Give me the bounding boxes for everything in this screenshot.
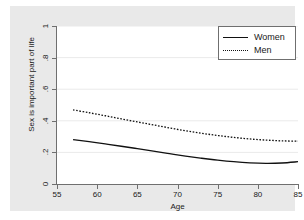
x-tick-mark — [178, 185, 179, 189]
y-tick-mark — [52, 26, 56, 27]
legend: Women Men — [218, 26, 296, 60]
x-tick-label: 65 — [126, 190, 148, 199]
y-tick-mark — [52, 152, 56, 153]
x-tick-mark — [137, 185, 138, 189]
x-tick-mark — [97, 185, 98, 189]
legend-item-men: Men — [219, 43, 295, 56]
x-tick-mark — [218, 185, 219, 189]
x-tick-label: 60 — [86, 190, 108, 199]
y-tick-mark — [52, 184, 56, 185]
legend-line-solid-icon — [223, 33, 248, 41]
legend-label-women: Women — [248, 32, 285, 42]
y-tick-mark — [52, 121, 56, 122]
legend-item-women: Women — [219, 30, 295, 43]
y-tick-label: .8 — [42, 52, 50, 64]
x-tick-mark — [57, 185, 58, 189]
x-axis-title: Age — [56, 202, 299, 211]
series-line-men — [73, 110, 298, 141]
x-tick-label: 55 — [46, 190, 68, 199]
graph-frame: Sex is important part of life 0.2.4.6.81… — [10, 6, 295, 211]
y-axis-title: Sex is important part of life — [27, 19, 36, 151]
series-line-women — [73, 140, 298, 164]
x-tick-mark — [258, 185, 259, 189]
y-tick-mark — [52, 58, 56, 59]
y-tick-label: 1 — [42, 20, 50, 32]
y-tick-label: .4 — [42, 115, 50, 127]
chart-screenshot: Sex is important part of life 0.2.4.6.81… — [0, 0, 304, 220]
x-tick-label: 70 — [167, 190, 189, 199]
y-tick-label: .2 — [42, 146, 50, 158]
x-tick-label: 85 — [287, 190, 304, 199]
x-tick-label: 75 — [207, 190, 229, 199]
y-tick-mark — [52, 89, 56, 90]
plot-region: Women Men — [57, 26, 298, 184]
x-tick-mark — [298, 185, 299, 189]
legend-label-men: Men — [248, 45, 272, 55]
y-tick-label: .6 — [42, 83, 50, 95]
legend-line-dotted-icon — [223, 46, 248, 54]
y-tick-label: 0 — [42, 178, 50, 190]
x-tick-label: 80 — [247, 190, 269, 199]
